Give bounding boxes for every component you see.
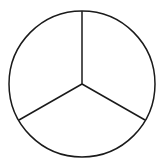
diagram-canvas bbox=[0, 0, 162, 167]
divided-circle-diagram bbox=[0, 0, 162, 167]
